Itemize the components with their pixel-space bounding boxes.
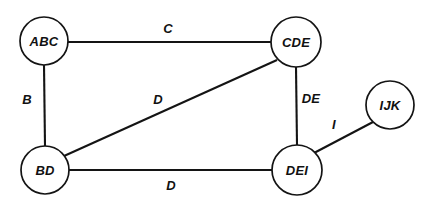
diagram-canvas: C B D DE D I — [0, 0, 428, 210]
edge-bd-cde[interactable]: D — [64, 60, 277, 156]
edge-line-abc-bd — [44, 65, 45, 146]
edge-dei-ijk[interactable]: I — [314, 117, 373, 154]
node-label-cde: CDE — [282, 35, 310, 50]
edge-label-dei-ijk: I — [332, 117, 336, 132]
edge-line-cde-dei — [296, 67, 297, 145]
node-label-bd: BD — [35, 163, 55, 178]
edge-label-abc-cde: C — [163, 21, 173, 36]
edge-label-bd-cde: D — [153, 92, 163, 107]
node-dei[interactable]: DEI — [272, 145, 322, 195]
edge-line-bd-cde — [64, 60, 277, 156]
node-cde[interactable]: CDE — [271, 17, 321, 67]
node-label-ijk: IJK — [380, 98, 402, 113]
edge-label-abc-bd: B — [22, 92, 32, 107]
edge-bd-dei[interactable]: D — [69, 170, 272, 193]
edge-cde-dei[interactable]: DE — [296, 67, 320, 145]
edge-abc-bd[interactable]: B — [22, 65, 45, 146]
edge-label-cde-dei: DE — [302, 91, 321, 106]
node-label-dei: DEI — [286, 163, 308, 178]
node-bd[interactable]: BD — [21, 146, 69, 194]
edge-abc-cde[interactable]: C — [68, 21, 271, 43]
node-label-abc: ABC — [29, 34, 59, 49]
nodes-group: ABC CDE IJK BD DEI — [20, 17, 414, 195]
node-ijk[interactable]: IJK — [366, 81, 414, 129]
graph-diagram: C B D DE D I — [0, 0, 428, 210]
edge-label-bd-dei: D — [166, 178, 176, 193]
edge-line-dei-ijk — [314, 122, 373, 153]
node-abc[interactable]: ABC — [20, 17, 68, 65]
